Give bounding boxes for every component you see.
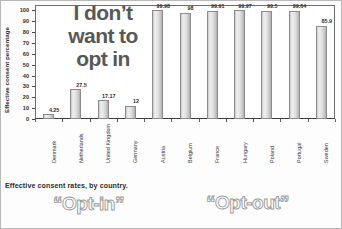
x-tick-mark	[35, 119, 36, 122]
x-axis-country-label: United Kingdom	[105, 124, 111, 163]
y-tick-label: 90	[11, 18, 29, 24]
y-tick-label: 40	[11, 73, 29, 79]
y-axis-label: Effective consent percentage	[3, 27, 10, 113]
bar-value-label: 99.64	[283, 3, 317, 9]
y-tick-mark	[32, 76, 35, 77]
y-tick-label: 0	[11, 116, 29, 122]
y-tick-label: 60	[11, 51, 29, 57]
y-tick-label: 50	[11, 62, 29, 68]
bar	[125, 106, 136, 119]
x-tick-mark	[62, 119, 63, 122]
group-label-opt-out: “Opt-out”	[206, 192, 289, 214]
x-tick-mark	[90, 119, 91, 122]
bar	[234, 10, 245, 119]
x-axis-country-label: Sweden	[323, 143, 329, 163]
y-tick-mark	[32, 43, 35, 44]
y-tick-label: 70	[11, 40, 29, 46]
overlay-line-2: want to	[49, 24, 157, 47]
x-tick-mark	[253, 119, 254, 122]
x-tick-mark	[226, 119, 227, 122]
group-label-opt-in: “Opt-in”	[53, 193, 124, 215]
x-axis-country-label: Belgium	[187, 143, 193, 163]
y-tick-mark	[32, 21, 35, 22]
y-tick-label: 80	[11, 29, 29, 35]
overlay-line-3: opt in	[49, 47, 157, 70]
y-tick-label: 100	[11, 7, 29, 13]
x-axis-country-label: Germany	[132, 140, 138, 163]
overlay-line-1: I don’t	[49, 1, 157, 24]
bar	[289, 11, 300, 119]
y-tick-label: 20	[11, 94, 29, 100]
x-axis-country-label: Austria	[160, 146, 166, 163]
bar-value-label: 85.9	[310, 18, 342, 24]
x-axis-country-label: Poland	[269, 146, 275, 163]
x-tick-mark	[117, 119, 118, 122]
y-tick-mark	[32, 108, 35, 109]
y-tick-mark	[32, 32, 35, 33]
x-axis-country-label: France	[214, 146, 220, 163]
y-tick-label: 10	[11, 105, 29, 111]
y-tick-mark	[32, 65, 35, 66]
y-tick-mark	[32, 54, 35, 55]
x-axis-country-label: Denmark	[51, 141, 57, 163]
bar	[316, 26, 327, 119]
x-tick-mark	[280, 119, 281, 122]
overlay-headline: I don’t want to opt in	[49, 1, 157, 70]
x-tick-mark	[144, 119, 145, 122]
bar	[180, 13, 191, 119]
y-tick-label: 30	[11, 83, 29, 89]
x-axis-country-label: Netherlands	[78, 133, 84, 163]
bar-value-label: 27.5	[64, 82, 98, 88]
x-tick-mark	[199, 119, 200, 122]
x-tick-mark	[308, 119, 309, 122]
x-axis-country-label: Portugal	[296, 143, 302, 163]
chart-figure: Effective consent percentage 10090807060…	[0, 0, 342, 229]
x-tick-mark	[171, 119, 172, 122]
bar	[43, 114, 54, 119]
x-axis-country-label: Hungary	[242, 142, 248, 163]
bar-value-label: 4.25	[37, 107, 71, 113]
bar	[207, 11, 218, 119]
y-tick-mark	[32, 86, 35, 87]
bar	[261, 11, 272, 119]
x-tick-mark	[335, 119, 336, 122]
bar-value-label: 12	[119, 98, 153, 104]
y-tick-mark	[32, 97, 35, 98]
y-tick-mark	[32, 10, 35, 11]
bar	[70, 89, 81, 119]
chart-caption: Effective consent rates, by country.	[5, 182, 128, 190]
bar	[98, 100, 109, 119]
